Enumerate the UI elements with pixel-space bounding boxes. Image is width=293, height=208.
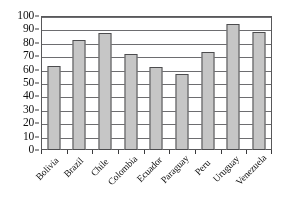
bar-paraguay [176, 74, 189, 150]
x-tick-label-peru: Peru [193, 157, 212, 176]
x-tick-label-brazil: Brazil [62, 156, 85, 179]
y-tick-mark-40 [35, 96, 39, 97]
x-tick-mark-7 [221, 150, 222, 154]
x-tick-mark-2 [92, 150, 93, 154]
bars-group [41, 16, 272, 150]
bar-slot [41, 16, 67, 150]
y-tick-label-20: 20 [23, 117, 34, 129]
x-tick-mark-6 [195, 150, 196, 154]
y-tick-mark-80 [35, 42, 39, 43]
bar-uruguay [227, 24, 240, 150]
bar-slot [169, 16, 195, 150]
y-tick-mark-60 [35, 69, 39, 70]
bar-colombia [124, 54, 137, 150]
bar-venezuela [253, 32, 266, 150]
bar-slot [221, 16, 247, 150]
y-tick-label-80: 80 [23, 37, 34, 49]
y-tick-label-40: 40 [23, 91, 34, 103]
x-tick-mark-0 [41, 150, 42, 154]
x-tick-label-paraguay: Paraguay [159, 154, 191, 186]
x-tick-label-colombia: Colombia [106, 153, 139, 186]
y-tick-mark-70 [35, 56, 39, 57]
bar-chile [99, 33, 112, 150]
bar-peru [201, 52, 214, 150]
bar-slot [118, 16, 144, 150]
bar-slot [246, 16, 272, 150]
y-tick-label-50: 50 [23, 77, 34, 89]
y-tick-label-30: 30 [23, 104, 34, 116]
bar-bolivia [47, 66, 60, 150]
y-tick-label-0: 0 [28, 144, 34, 156]
y-axis: 0102030405060708090100 [0, 16, 39, 150]
y-tick-label-100: 100 [17, 10, 34, 22]
x-tick-mark-1 [67, 150, 68, 154]
y-tick-label-90: 90 [23, 24, 34, 36]
x-axis: BoliviaBrazilChileColombiaEcuadorParagua… [41, 155, 272, 208]
y-tick-mark-0 [35, 150, 39, 151]
bar-ecuador [150, 67, 163, 150]
bar-chart-figure: 0102030405060708090100 BoliviaBrazilChil… [0, 0, 293, 208]
y-tick-mark-100 [35, 16, 39, 17]
y-tick-mark-90 [35, 29, 39, 30]
bar-slot [67, 16, 93, 150]
x-tick-mark-3 [118, 150, 119, 154]
y-tick-label-70: 70 [23, 50, 34, 62]
bar-slot [92, 16, 118, 150]
y-tick-mark-10 [35, 136, 39, 137]
bar-slot [144, 16, 170, 150]
y-tick-label-60: 60 [23, 64, 34, 76]
y-tick-mark-20 [35, 123, 39, 124]
x-tick-label-chile: Chile [89, 157, 110, 178]
x-tick-mark-8 [246, 150, 247, 154]
y-tick-mark-30 [35, 109, 39, 110]
x-tick-mark-5 [169, 150, 170, 154]
y-tick-label-10: 10 [23, 131, 34, 143]
y-tick-mark-50 [35, 83, 39, 84]
bar-slot [195, 16, 221, 150]
x-tick-mark-9 [271, 150, 272, 154]
x-tick-label-bolivia: Bolivia [34, 155, 61, 182]
x-tick-mark-4 [144, 150, 145, 154]
bar-brazil [73, 40, 86, 150]
